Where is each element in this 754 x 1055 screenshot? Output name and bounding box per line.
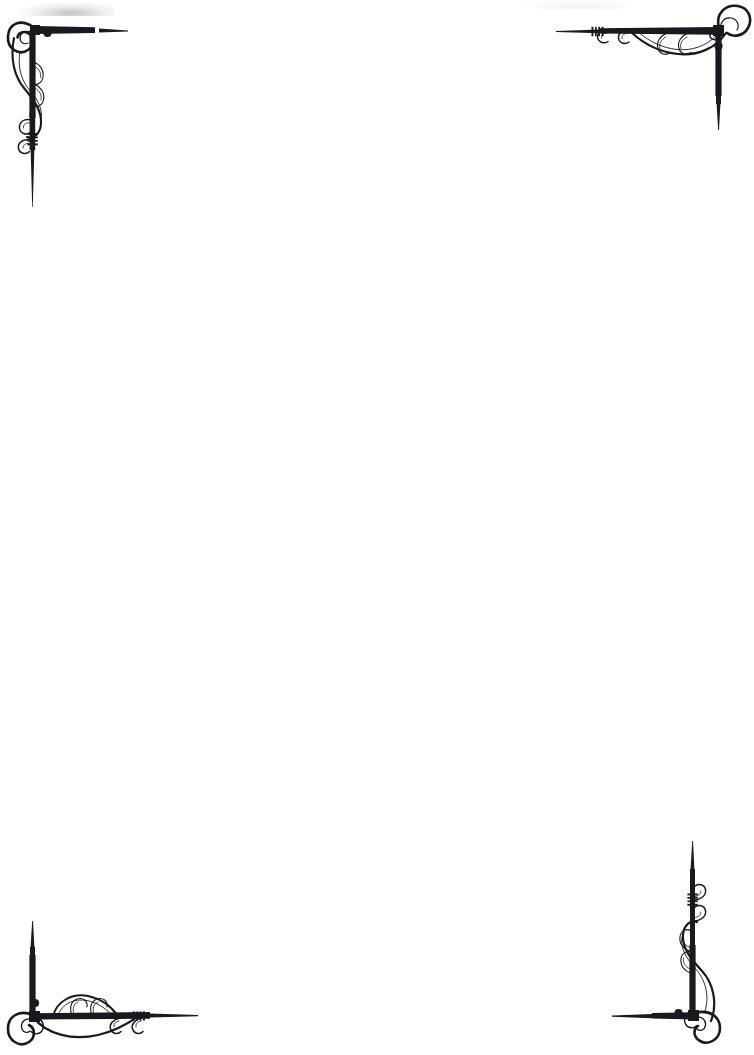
corner-ornament-bottom-right xyxy=(606,835,754,1055)
corner-ornament-bottom-left xyxy=(0,915,224,1055)
document-page xyxy=(0,0,754,1055)
corner-ornament-top-right xyxy=(530,0,754,150)
page-content-area xyxy=(70,230,684,820)
corner-dot-bottom-left xyxy=(31,999,39,1007)
corner-dot-top-right xyxy=(714,42,722,50)
corner-dot-bottom-right xyxy=(674,1009,682,1017)
corner-dot-top-left xyxy=(43,29,51,37)
corner-ornament-top-left xyxy=(0,0,150,230)
